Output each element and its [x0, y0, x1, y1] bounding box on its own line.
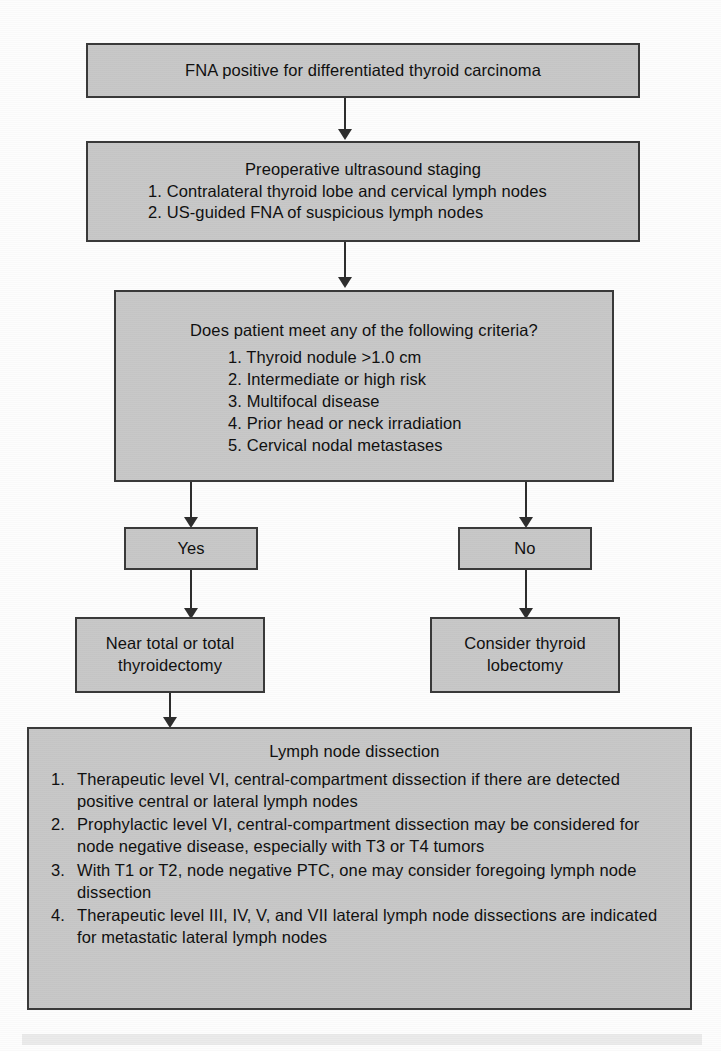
list-item: 4. Therapeutic level III, IV, V, and VII… [29, 905, 680, 949]
node-preop-staging: Preoperative ultrasound staging 1. Contr… [86, 141, 640, 242]
node-total-thyroidectomy-line1: Near total or total [77, 633, 263, 655]
node-criteria-list: 1. Thyroid nodule >1.0 cm 2. Intermediat… [116, 347, 612, 456]
footer-band [22, 1034, 702, 1045]
node-lobectomy-line1: Consider thyroid [432, 633, 618, 655]
node-no-label: No [460, 538, 590, 560]
list-item: 3. With T1 or T2, node negative PTC, one… [29, 860, 680, 904]
connector-staging-to-criteria-line [344, 242, 346, 279]
node-total-thyroidectomy: Near total or total thyroidectomy [75, 617, 265, 693]
node-yes-label: Yes [126, 538, 256, 560]
list-item: 4. Prior head or neck irradiation [228, 413, 612, 435]
node-fna-positive: FNA positive for differentiated thyroid … [86, 43, 640, 98]
list-item-number: 4. [51, 905, 77, 927]
flowchart-page: FNA positive for differentiated thyroid … [0, 0, 721, 1051]
node-preop-staging-list: 1. Contralateral thyroid lobe and cervic… [88, 181, 638, 225]
list-item-number: 2. [51, 814, 77, 836]
list-item-number: 1. [51, 769, 77, 791]
node-lobectomy: Consider thyroid lobectomy [430, 617, 620, 693]
node-criteria: Does patient meet any of the following c… [114, 290, 614, 482]
list-item-text: Therapeutic level III, IV, V, and VII la… [77, 905, 680, 949]
list-item: 1. Contralateral thyroid lobe and cervic… [148, 181, 638, 203]
list-item-number: 3. [51, 860, 77, 882]
node-criteria-question: Does patient meet any of the following c… [116, 320, 612, 342]
connector-fna-to-staging-line [344, 98, 346, 131]
node-no: No [458, 527, 592, 570]
list-item-text: Prophylactic level VI, central-compartme… [77, 814, 680, 858]
list-item: 3. Multifocal disease [228, 391, 612, 413]
connector-criteria-to-yes-line [190, 482, 192, 519]
list-item-text: Therapeutic level VI, central-compartmen… [77, 769, 680, 813]
list-item: 1. Therapeutic level VI, central-compart… [29, 769, 680, 813]
node-lymph-node-dissection-heading: Lymph node dissection [29, 741, 680, 763]
node-yes: Yes [124, 527, 258, 570]
list-item: 2. Intermediate or high risk [228, 369, 612, 391]
node-lobectomy-line2: lobectomy [432, 655, 618, 677]
connector-staging-to-criteria-arrowhead [338, 277, 352, 288]
list-item: 5. Cervical nodal metastases [228, 435, 612, 457]
node-fna-positive-label: FNA positive for differentiated thyroid … [88, 60, 638, 82]
node-preop-staging-heading: Preoperative ultrasound staging [88, 159, 638, 181]
node-lymph-node-dissection: Lymph node dissection 1. Therapeutic lev… [27, 727, 692, 1010]
list-item-text: With T1 or T2, node negative PTC, one ma… [77, 860, 680, 904]
connector-criteria-to-no-line [525, 482, 527, 519]
list-item: 1. Thyroid nodule >1.0 cm [228, 347, 612, 369]
list-item: 2. US-guided FNA of suspicious lymph nod… [148, 202, 638, 224]
connector-thyroidectomy-to-dissection-line [169, 693, 171, 719]
connector-yes-to-thyroidectomy-line [190, 570, 192, 610]
connector-fna-to-staging-arrowhead [338, 129, 352, 140]
list-item: 2. Prophylactic level VI, central-compar… [29, 814, 680, 858]
connector-no-to-lobectomy-line [525, 570, 527, 610]
node-total-thyroidectomy-line2: thyroidectomy [77, 655, 263, 677]
